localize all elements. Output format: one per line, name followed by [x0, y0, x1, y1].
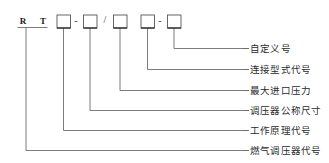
code-box-3[interactable] [114, 15, 128, 28]
model-designation-diagram: R T - / - 自定义号 连接型式代号 最大进口压力 调压器公称尺寸 工作原… [0, 0, 329, 163]
label-max-inlet-pressure: 最大进口压力 [250, 85, 311, 96]
code-box-4[interactable] [141, 15, 155, 28]
prefix-letter-r: R [17, 16, 29, 26]
leader-line-box-5 [174, 28, 243, 49]
label-connection-type-code: 连接型式代号 [250, 64, 311, 75]
label-working-principle-code: 工作原理代号 [250, 125, 311, 136]
slash-separator: / [100, 15, 110, 25]
code-box-5[interactable] [168, 15, 182, 28]
code-box-2[interactable] [84, 15, 98, 28]
hyphen-separator-1: - [71, 16, 81, 26]
leader-line-prefix [26, 28, 243, 151]
leader-line-box-3 [120, 28, 243, 91]
label-custom-number: 自定义号 [250, 43, 291, 54]
hyphen-separator-2: - [155, 16, 165, 26]
label-regulator-nominal-size: 调压器公称尺寸 [250, 105, 321, 116]
prefix-letter-t: T [37, 16, 49, 26]
code-box-1[interactable] [57, 15, 71, 28]
label-gas-regulator-code: 燃气调压器代号 [250, 145, 321, 156]
